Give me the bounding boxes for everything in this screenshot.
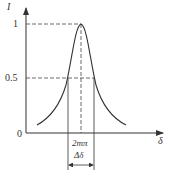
x-center-label: 2mπ xyxy=(72,139,88,148)
x-axis-label: δ xyxy=(158,136,163,146)
y-tick-1: 1 xyxy=(13,19,18,29)
resonance-curve xyxy=(37,24,126,125)
y-tick-0: 0 xyxy=(17,129,22,139)
width-label: Δδ xyxy=(74,151,83,160)
y-axis-label: I xyxy=(7,2,10,12)
y-tick-0-5: 0.5 xyxy=(5,73,18,83)
resonance-diagram xyxy=(0,0,174,181)
